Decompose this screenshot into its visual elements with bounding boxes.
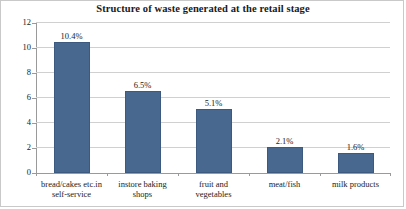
y-axis-label-6: 6 [3, 93, 31, 102]
bar-label-milk-products: 1.6% [320, 142, 391, 152]
y-axis-label-0: 0 [3, 168, 31, 177]
bar-meat-fish[interactable] [267, 147, 303, 173]
x-axis-label-meat-fish: meat/fish [249, 176, 320, 189]
x-axis-category-instore-baking: instore baking shops [107, 176, 178, 208]
chart-container: Structure of waste generated at the reta… [0, 0, 404, 207]
bar-bread-cakes[interactable] [54, 42, 90, 173]
bar-group-fruit-vegetables: 5.1% [178, 22, 249, 173]
y-axis-label-8: 8 [3, 68, 31, 77]
y-axis-label-10: 10 [3, 43, 31, 52]
y-axis-label-4: 4 [3, 118, 31, 127]
bar-group-instore-baking: 6.5% [107, 22, 178, 173]
y-axis-labels: 12 10 8 6 4 2 0 [1, 1, 31, 209]
x-axis-label-bread-cakes-line1: bread/cakes etc.in [36, 176, 107, 189]
x-axis-label-instore-baking-line2: shops [107, 189, 178, 199]
x-axis-category-bread-cakes: bread/cakes etc.in self-service [36, 176, 107, 208]
bar-instore-baking[interactable] [125, 91, 161, 173]
x-axis-line [36, 173, 391, 174]
x-axis-category-meat-fish: meat/fish [249, 176, 320, 208]
x-axis-tick-0 [36, 173, 37, 176]
y-axis-label-12: 12 [3, 18, 31, 27]
chart-title: Structure of waste generated at the reta… [1, 3, 405, 14]
bar-group-bread-cakes: 10.4% [36, 22, 107, 173]
bar-label-instore-baking: 6.5% [107, 80, 178, 90]
bar-label-bread-cakes: 10.4% [36, 31, 107, 41]
x-axis-label-fruit-vegetables-line2: vegetables [178, 189, 249, 199]
bar-group-milk-products: 1.6% [320, 22, 391, 173]
bar-label-meat-fish: 2.1% [249, 136, 320, 146]
bar-milk-products[interactable] [338, 153, 374, 173]
bar-label-fruit-vegetables: 5.1% [178, 98, 249, 108]
x-axis-tick-1 [107, 173, 108, 176]
x-axis-tick-2 [178, 173, 179, 176]
x-axis-labels: bread/cakes etc.in self-service instore … [36, 176, 391, 208]
x-axis-label-bread-cakes-line2: self-service [36, 189, 107, 199]
x-axis-category-milk-products: milk products [320, 176, 391, 208]
x-axis-tick-5 [390, 173, 391, 176]
x-axis-label-instore-baking-line1: instore baking [107, 176, 178, 189]
x-axis-label-fruit-vegetables-line1: fruit and [178, 176, 249, 189]
bar-fruit-vegetables[interactable] [196, 109, 232, 173]
x-axis-tick-4 [320, 173, 321, 176]
x-axis-tick-3 [249, 173, 250, 176]
x-axis-category-fruit-vegetables: fruit and vegetables [178, 176, 249, 208]
bar-group-meat-fish: 2.1% [249, 22, 320, 173]
plot-area: 10.4% 6.5% 5.1% 2.1% 1.6% [36, 22, 390, 173]
y-axis-label-2: 2 [3, 143, 31, 152]
x-axis-label-milk-products: milk products [320, 176, 391, 189]
